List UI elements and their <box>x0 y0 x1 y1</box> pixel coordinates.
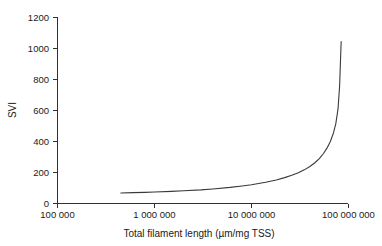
y-tick-labels: 1200 1000 800 600 400 200 0 <box>28 12 49 209</box>
svi-filament-length-chart: 1200 1000 800 600 400 200 0 100 000 1 00… <box>0 0 382 246</box>
x-axis-title: Total filament length (µm/mg TSS) <box>123 228 274 239</box>
x-tick-label: 1 000 000 <box>133 209 175 220</box>
y-tick-marks <box>53 18 58 204</box>
y-tick-label: 0 <box>44 198 49 209</box>
x-tick-labels: 100 000 1 000 000 10 000 000 100 000 000 <box>40 209 375 220</box>
y-tick-label: 600 <box>33 105 49 116</box>
y-tick-label: 1200 <box>28 12 49 23</box>
svi-curve <box>121 42 341 193</box>
x-tick-marks <box>58 204 349 209</box>
x-tick-label: 100 000 000 <box>322 209 375 220</box>
y-tick-label: 1000 <box>28 43 49 54</box>
y-tick-label: 800 <box>33 74 49 85</box>
y-tick-label: 400 <box>33 136 49 147</box>
y-tick-label: 200 <box>33 167 49 178</box>
y-axis-title: SVI <box>7 102 18 118</box>
chart-figure: 1200 1000 800 600 400 200 0 100 000 1 00… <box>0 0 382 246</box>
x-tick-label: 100 000 <box>40 209 74 220</box>
x-tick-label: 10 000 000 <box>228 209 276 220</box>
